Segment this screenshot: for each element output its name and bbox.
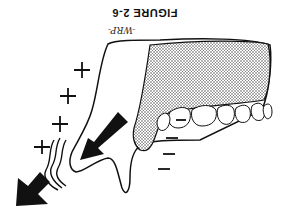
- dental-illustration: [0, 0, 297, 218]
- plus-signs: [34, 62, 90, 154]
- stippled-bone: [133, 41, 270, 151]
- outer-force-arrow-icon: [16, 172, 50, 206]
- inner-force-arrow-icon: [80, 112, 128, 160]
- figure-canvas: FIGURE 2-6 -WRP-: [0, 0, 297, 218]
